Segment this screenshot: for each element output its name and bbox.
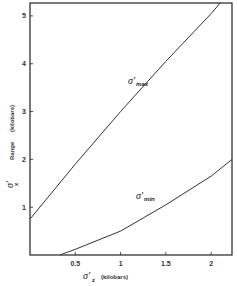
chart: 12345 0.511.52 σ'max σ'min σ' z (kilobar… [0, 0, 237, 286]
x-axis-label: σ' z (kilobars) [83, 270, 128, 283]
y-axis-label: σ' x [4, 180, 19, 188]
y-axis-ticks: 12345 [22, 12, 33, 210]
x-tick-label: 2 [209, 260, 213, 267]
x-axis-ticks: 0.511.52 [70, 252, 213, 267]
sigma-max-curve [30, 3, 220, 219]
y-tick-label: 4 [22, 60, 26, 67]
svg-text:(kilobars): (kilobars) [101, 274, 128, 280]
y-tick-label: 5 [22, 12, 26, 19]
sigma-max-label: σ'max [128, 75, 149, 87]
x-tick-label: 0.5 [70, 260, 80, 267]
y-tick-label: 3 [22, 108, 26, 115]
sigma-min-curve [60, 159, 232, 255]
x-tick-label: 1.5 [161, 260, 171, 267]
plot-frame [30, 3, 232, 255]
y-axis-range-label: Range [9, 141, 15, 160]
y-axis-units-label: (kilobars) [9, 105, 15, 132]
svg-text:z: z [92, 277, 95, 283]
y-tick-label: 1 [22, 204, 26, 211]
x-tick-label: 1 [119, 260, 123, 267]
svg-text:σ': σ' [83, 270, 91, 281]
y-tick-label: 2 [22, 156, 26, 163]
sigma-min-label: σ'min [136, 190, 155, 202]
